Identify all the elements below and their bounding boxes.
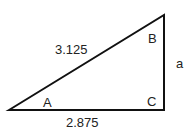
vertex-c-label: C [147, 95, 156, 108]
vertical-side-label: a [176, 57, 183, 70]
vertex-b-label: B [148, 32, 157, 45]
triangle-diagram [0, 0, 192, 132]
vertex-a-label: A [43, 96, 52, 109]
hypotenuse-label: 3.125 [55, 43, 88, 56]
base-label: 2.875 [66, 116, 99, 129]
triangle-shape [9, 15, 164, 110]
